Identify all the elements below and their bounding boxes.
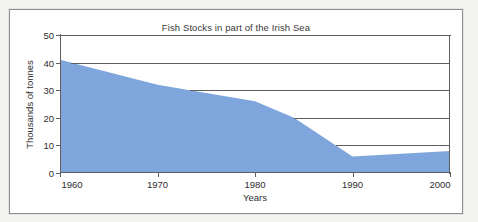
right-axis-line [449,35,450,174]
gridline-20 [294,118,450,119]
y-tick-label-20: 20 [43,112,54,123]
y-tick-label-10: 10 [43,140,54,151]
x-tick-label-1960: 1960 [61,179,82,190]
x-tick-label-2000: 2000 [429,179,450,190]
plot-area: 01020304050 19601970198019902000 [60,35,450,173]
y-axis-line [60,34,61,174]
y-axis-title: Thousands of tonnes [22,35,36,173]
y-tick-50 [56,35,61,36]
y-tick-20 [56,118,61,119]
y-tick-label-0: 0 [49,168,54,179]
gridline-10 [336,145,450,146]
x-tick-1990 [353,172,354,177]
x-axis-title: Years [60,192,450,203]
top-axis-line [60,35,451,36]
x-tick-1960 [60,172,61,177]
x-tick-label-1990: 1990 [342,179,363,190]
y-tick-30 [56,90,61,91]
y-tick-label-50: 50 [43,30,54,41]
x-tick-label-1970: 1970 [147,179,168,190]
x-tick-1970 [158,172,159,177]
y-tick-10 [56,145,61,146]
y-tick-40 [56,63,61,64]
y-tick-label-40: 40 [43,57,54,68]
y-tick-label-30: 30 [43,85,54,96]
x-tick-label-1980: 1980 [244,179,265,190]
chart-frame: Fish Stocks in part of the Irish Sea Tho… [9,9,463,214]
chart-title: Fish Stocks in part of the Irish Sea [10,22,462,33]
x-tick-2000 [450,172,451,177]
y-axis-title-label: Thousands of tonnes [24,60,35,149]
chart-page: Fish Stocks in part of the Irish Sea Tho… [0,0,478,222]
x-tick-1980 [255,172,256,177]
gridline-40 [71,63,450,64]
gridline-30 [190,90,450,91]
area-series-fish-stocks [60,35,450,173]
